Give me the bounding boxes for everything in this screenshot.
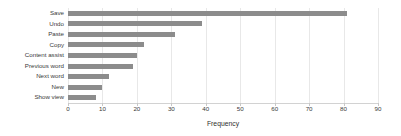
y-axis-tick-label: Content assist [0, 50, 64, 61]
x-axis-title: Frequency [68, 120, 378, 127]
bar [68, 64, 133, 69]
bar [68, 42, 144, 47]
bar [68, 85, 102, 90]
y-axis-category-labels: SaveUndoPasteCopyContent assistPrevious … [0, 8, 64, 103]
y-axis-tick-label: New [0, 82, 64, 93]
bar [68, 32, 175, 37]
x-axis-tick-label: 10 [99, 105, 106, 112]
bar-rows [68, 8, 378, 103]
x-axis-tick-label: 90 [375, 105, 382, 112]
y-axis-tick-label: Show view [0, 92, 64, 103]
x-axis-tick-label: 70 [306, 105, 313, 112]
x-axis-tick-label: 50 [237, 105, 244, 112]
x-axis-tick-label: 30 [168, 105, 175, 112]
bar [68, 21, 202, 26]
gridline [378, 8, 379, 103]
bar-row [68, 50, 378, 61]
x-axis-tick-label: 0 [66, 105, 69, 112]
bar-row [68, 82, 378, 93]
bar [68, 11, 347, 16]
y-axis-tick-label: Paste [0, 29, 64, 40]
bar [68, 53, 137, 58]
bar-chart: SaveUndoPasteCopyContent assistPrevious … [0, 0, 401, 136]
y-axis-tick-label: Previous word [0, 61, 64, 72]
y-axis-tick-label: Copy [0, 40, 64, 51]
bar-row [68, 92, 378, 103]
x-axis-tick-label: 40 [202, 105, 209, 112]
x-axis-tick-labels: 0102030405060708090 [68, 105, 378, 117]
y-axis-tick-label: Undo [0, 19, 64, 30]
bar-row [68, 29, 378, 40]
bar-row [68, 40, 378, 51]
x-axis-tick-label: 60 [271, 105, 278, 112]
bar-row [68, 61, 378, 72]
plot-area [68, 8, 378, 103]
bar-row [68, 19, 378, 30]
y-axis-tick-label: Next word [0, 71, 64, 82]
bar-row [68, 71, 378, 82]
bar-row [68, 8, 378, 19]
bar [68, 95, 96, 100]
x-axis-tick-label: 80 [340, 105, 347, 112]
bar [68, 74, 109, 79]
x-axis-tick-label: 20 [133, 105, 140, 112]
x-axis-line [68, 103, 379, 104]
y-axis-tick-label: Save [0, 8, 64, 19]
